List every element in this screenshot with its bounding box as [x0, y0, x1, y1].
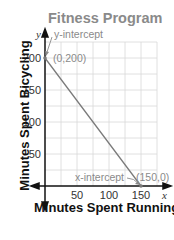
x-intercept-point: (150,0)	[136, 171, 169, 183]
y-intercept-label: y-intercept	[54, 28, 103, 40]
x-intercept-label: x-intercept	[75, 171, 124, 183]
y-intercept-point: (0,200)	[53, 52, 86, 64]
y-axis-label: Minutes Spent Bicycling	[17, 36, 32, 196]
x-axis-label: Minutes Spent Running	[34, 200, 174, 215]
y-axis-symbol: y	[35, 28, 41, 40]
point-y-intercept	[43, 56, 47, 60]
